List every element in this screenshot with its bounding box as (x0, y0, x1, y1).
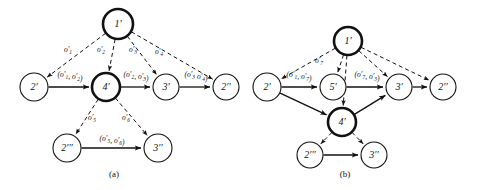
edge-label-a-a2c-to-a3b: (o′5, o′6) (100, 134, 125, 147)
node-label-a-4p: 4′ (102, 81, 110, 92)
edge-label-a-a1-to-a3: o′3 (129, 45, 137, 55)
dashed-edge-a-a1-to-a3 (127, 36, 156, 74)
node-label-b-5p: 5′ (329, 81, 337, 92)
edge-label-b-b1-to-b5: o′7 (315, 56, 323, 66)
node-label-b-4p: 4′ (338, 116, 346, 127)
node-label-b-3p: 3′ (394, 81, 403, 92)
edge-label-a-a1-to-a2: o′1 (64, 45, 72, 55)
figure-root: 1′2′4′3′2′′2′′′3′′1′2′5′3′2′′4′2′′′3′′ o… (0, 0, 477, 190)
node-label-a-3p: 3′ (161, 81, 170, 92)
dashed-edge-a-a4-to-a3b (115, 98, 147, 135)
node-label-b-2p: 2′ (263, 81, 271, 92)
edge-label-b-b5-to-b3: (o′7, o′3) (355, 70, 380, 83)
solid-edge-b-b4-to-b3 (354, 95, 385, 114)
node-label-b-3pp: 3′′ (368, 149, 379, 160)
dashed-edge-b-b4-to-b3b (352, 132, 363, 143)
dashed-edge-a-a1-to-a4 (109, 39, 115, 71)
edge-label-a-a1-to-a2b: o′4 (155, 47, 163, 57)
node-label-a-2ppp: 2′′′ (61, 142, 73, 153)
edge-label-a-a2-to-a4: (o′1, o′2) (58, 70, 83, 83)
node-label-b-2pp: 2′′ (438, 81, 448, 92)
node-label-a-1p: 1′ (114, 18, 122, 29)
panel-caption-b: (b) (340, 169, 351, 179)
dashed-edge-b-b1-to-b5 (338, 55, 344, 72)
node-label-a-3pp: 3′′ (152, 142, 163, 153)
node-label-b-2ppp: 2′′′ (304, 149, 316, 160)
node-label-a-2p: 2′ (30, 81, 38, 92)
node-label-a-2pp: 2′′ (221, 81, 231, 92)
edge-label-a-a4-to-a3: (o′2, o′3) (124, 70, 149, 83)
edge-label-a-a1-to-a4: o′2 (97, 45, 105, 55)
precedence-graph-figure: 1′2′4′3′2′′2′′′3′′1′2′5′3′2′′4′2′′′3′′ o… (0, 0, 477, 190)
edge-label-b-b2-to-b5: (o′1, o′7) (287, 70, 312, 83)
dashed-edge-a-a1-to-a2 (47, 33, 105, 77)
solid-edge-b-b2-to-b4 (280, 93, 326, 115)
edge-label-a-a4-to-a2c: o′5 (88, 113, 96, 123)
panel-caption-a: (a) (109, 169, 119, 179)
dashed-edge-b-b4-to-b2c (321, 132, 332, 143)
node-layer: 1′2′4′3′2′′2′′′3′′1′2′5′3′2′′4′2′′′3′′ (20, 9, 456, 168)
node-label-b-1p: 1′ (344, 35, 352, 46)
caption-layer: (a)(b) (109, 169, 350, 179)
edge-label-a-a3-to-a2b: (o′3 o′4) (184, 70, 208, 83)
